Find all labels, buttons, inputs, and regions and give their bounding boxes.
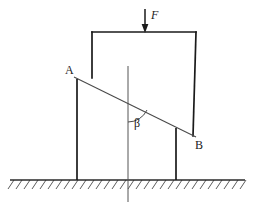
ground-hatching	[8, 180, 246, 189]
label-force-f: F	[151, 9, 158, 21]
label-angle-beta: β	[134, 117, 140, 129]
label-point-b: B	[195, 139, 203, 151]
block-outline	[92, 32, 196, 136]
force-arrow-f	[142, 9, 149, 33]
figure-canvas: A B F β	[0, 0, 255, 218]
label-point-a: A	[65, 64, 74, 76]
diagram-svg	[0, 0, 255, 218]
